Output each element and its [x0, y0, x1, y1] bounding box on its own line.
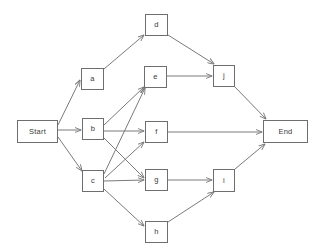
node-f[interactable]: f [145, 121, 168, 143]
node-b-label: b [91, 125, 95, 133]
node-a[interactable]: a [81, 68, 104, 90]
edge-d-to-j [168, 35, 214, 64]
node-g-label: g [154, 176, 158, 184]
edge-i-to-end [235, 144, 265, 169]
node-a-label: a [90, 75, 94, 83]
node-end[interactable]: End [263, 120, 308, 143]
edge-j-to-end [235, 87, 266, 119]
node-f-label: f [155, 128, 157, 136]
node-c-label: c [91, 177, 95, 185]
node-i-label: i [223, 177, 225, 185]
edge-a-to-d [104, 35, 144, 69]
edge-h-to-i [168, 192, 214, 222]
edge-b-to-g [104, 138, 144, 178]
node-g[interactable]: g [145, 169, 168, 191]
node-i[interactable]: i [213, 169, 235, 192]
node-c[interactable]: c [82, 170, 104, 192]
node-j-label: j [223, 72, 225, 80]
node-end-label: End [279, 128, 293, 136]
edge-start-to-c [58, 137, 82, 171]
edge-start-to-a [58, 80, 80, 125]
edge-c-to-g [104, 180, 144, 181]
node-h-label: h [154, 228, 158, 236]
node-e-label: e [153, 73, 157, 81]
node-d[interactable]: d [145, 14, 168, 36]
edge-c-to-h [104, 189, 144, 226]
node-j[interactable]: j [213, 65, 235, 87]
node-b[interactable]: b [82, 118, 104, 140]
node-d-label: d [154, 21, 158, 29]
node-h[interactable]: h [145, 221, 168, 243]
edge-b-to-e [104, 87, 144, 125]
diagram-canvas: StartabcdefghjiEnd [0, 0, 319, 251]
node-start[interactable]: Start [17, 120, 58, 143]
node-e[interactable]: e [144, 66, 167, 88]
node-start-label: Start [29, 128, 46, 136]
